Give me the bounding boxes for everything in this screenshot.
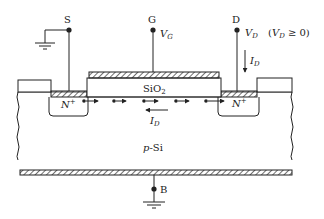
body-label: B [160, 184, 167, 195]
source-contact [51, 91, 87, 97]
ground-icon [35, 43, 55, 49]
substrate-label: p-Si [143, 142, 163, 153]
electron-flow [82, 99, 224, 103]
left-field-oxide [18, 80, 51, 92]
gate-voltage-label: VG [160, 28, 173, 41]
body-terminal [151, 175, 156, 202]
gate-metal [89, 72, 219, 78]
drain-voltage-label: VD [245, 27, 258, 40]
mosfet-diagram: S G D B VG VD (VD ≥ 0) ID SiO2 N+ N+ ID … [0, 0, 324, 219]
gate-label: G [148, 14, 156, 25]
drain-condition-label: (VD ≥ 0) [268, 27, 310, 40]
body-ground-icon [143, 202, 165, 208]
drain-contact [221, 91, 257, 97]
right-field-oxide [257, 78, 292, 92]
body-contact [20, 170, 292, 175]
gate-terminal [150, 27, 155, 72]
drain-current-label: ID [249, 55, 260, 68]
source-label: S [64, 14, 71, 25]
channel-current-label: ID [149, 115, 160, 128]
drain-label: D [232, 14, 240, 25]
drain-terminal [234, 27, 245, 91]
